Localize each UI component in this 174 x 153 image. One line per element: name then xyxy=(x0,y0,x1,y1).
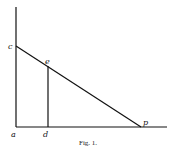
label-d: d xyxy=(43,130,48,139)
line-cp xyxy=(16,46,141,127)
label-p: p xyxy=(143,118,148,127)
label-a: a xyxy=(11,130,16,139)
label-e: e xyxy=(45,57,50,66)
geometry-figure: c e a d p Fig. 1. xyxy=(0,0,174,153)
figure-caption: Fig. 1. xyxy=(79,139,97,147)
label-c: c xyxy=(8,42,13,51)
